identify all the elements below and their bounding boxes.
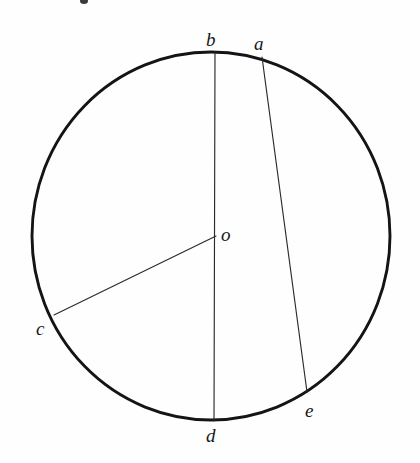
main-circle (32, 52, 390, 420)
point-label-a: a (254, 33, 264, 54)
segment-radius-oc (54, 236, 216, 315)
point-label-e: e (305, 400, 313, 421)
point-label-d: d (206, 425, 216, 446)
circle-geometry-figure: b a o c d e (0, 0, 420, 463)
point-label-b: b (206, 29, 216, 50)
point-label-o: o (221, 224, 231, 245)
segment-chord-ae (262, 57, 307, 392)
diagram-canvas: b a o c d e (0, 0, 420, 463)
scan-artifact-top (80, 0, 88, 4)
point-label-c: c (36, 318, 45, 339)
